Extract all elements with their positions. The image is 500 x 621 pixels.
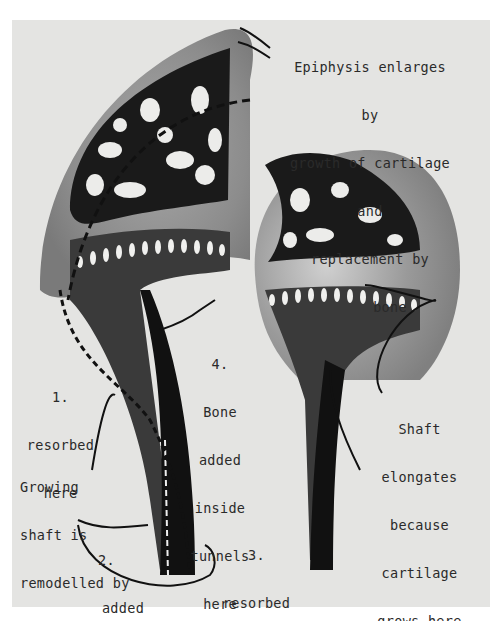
shaft-elongates-line-3: because <box>362 517 477 533</box>
shaft-elongates-line-2: elongates <box>362 469 477 485</box>
added-2-number: 2. <box>93 552 153 568</box>
shaft-elongates-line-1: Shaft <box>362 421 477 437</box>
bone-added-4-line-3: added <box>185 452 255 468</box>
resorbed-1-number: 1. <box>18 389 103 405</box>
epiphysis-line-1: Epiphysis enlarges <box>270 59 470 75</box>
epiphysis-line-6: bone <box>270 299 470 315</box>
resorbed-3-label: 3. resorbed here <box>214 515 299 621</box>
added-2-line-2: added <box>93 600 153 616</box>
epiphysis-label: Epiphysis enlarges by growth of cartilag… <box>270 27 470 331</box>
shaft-elongates-line-5: grows here <box>362 613 477 621</box>
epiphysis-line-4: and <box>270 203 470 219</box>
shaft-elongates-label: Shaft elongates because cartilage grows … <box>362 389 477 621</box>
resorbed-3-line-2: resorbed <box>214 595 299 611</box>
added-2-label: 2. added here <box>93 520 153 621</box>
epiphysis-line-2: by <box>270 107 470 123</box>
growing-shaft-line-1: Growing <box>20 479 130 495</box>
bone-added-4-number: 4. <box>185 356 255 372</box>
epiphysis-line-5: replacement by <box>270 251 470 267</box>
shaft-elongates-line-4: cartilage <box>362 565 477 581</box>
resorbed-3-number: 3. <box>214 547 299 563</box>
bone-added-4-line-2: Bone <box>185 404 255 420</box>
epiphysis-line-3: growth of cartilage <box>270 155 470 171</box>
bone-added-4-line-4: inside <box>185 500 255 516</box>
